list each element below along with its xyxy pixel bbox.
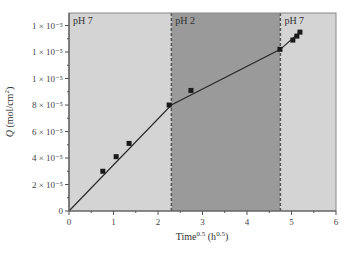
x-tick-label: 0 (67, 217, 72, 227)
data-point (100, 169, 105, 174)
x-title-base: Time (176, 231, 197, 242)
y-tick-label: 4 × 10⁻⁵ (32, 153, 63, 163)
region-label-1: pH 2 (175, 15, 195, 26)
region-label-2: pH 7 (284, 15, 304, 26)
x-axis-title: Time0.5 (h0.5) (176, 230, 228, 243)
x-tick-label: 6 (334, 217, 339, 227)
y-title-end: ) (4, 87, 16, 90)
data-point (297, 30, 302, 35)
y-tick-label: 1 × 10⁻⁵ (32, 74, 63, 84)
data-point (277, 47, 282, 52)
data-point (114, 154, 119, 159)
y-tick-label: 6 × 10⁻⁵ (32, 127, 63, 137)
region-label-0: pH 7 (73, 15, 93, 26)
chart: 0123456 02 × 10⁻⁵4 × 10⁻⁵6 × 10⁻⁵8 × 10⁻… (0, 0, 354, 254)
region-1 (171, 13, 280, 211)
x-axis-ticks: 0123456 (67, 211, 339, 227)
y-axis-title: Q (mol/cm2) (3, 87, 16, 137)
x-tick-label: 1 (111, 217, 116, 227)
data-point (127, 141, 132, 146)
y-axis-ticks: 02 × 10⁻⁵4 × 10⁻⁵6 × 10⁻⁵8 × 10⁻⁵1 × 10⁻… (32, 21, 69, 217)
region-0 (69, 13, 171, 211)
y-tick-label: 2 × 10⁻⁵ (32, 180, 63, 190)
x-title-end: ) (225, 231, 228, 243)
x-title-mid: (h (205, 231, 216, 243)
x-tick-label: 3 (200, 217, 205, 227)
data-point (167, 103, 172, 108)
x-tick-label: 4 (245, 217, 250, 227)
y-tick-label: 1 × 10⁻⁵ (32, 21, 63, 31)
x-tick-label: 5 (289, 217, 294, 227)
y-tick-label: 1 × 10⁻⁵ (32, 47, 63, 57)
y-tick-label: 8 × 10⁻⁵ (32, 100, 63, 110)
ph-regions (69, 13, 336, 211)
y-tick-label: 0 (59, 206, 64, 216)
y-title-rest: (mol/cm (4, 93, 16, 130)
x-tick-label: 2 (156, 217, 161, 227)
data-point (188, 88, 193, 93)
